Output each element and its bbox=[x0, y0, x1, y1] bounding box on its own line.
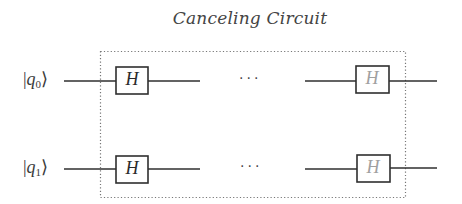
q0-ellipsis: ··· bbox=[239, 70, 261, 86]
q1-h-gate-first-label: H bbox=[116, 158, 148, 179]
ket-close: ⟩ bbox=[41, 157, 48, 177]
q0-h-gate-last-label: H bbox=[356, 68, 388, 89]
q1-h-gate-last-label: H bbox=[357, 157, 389, 178]
qubit-var: q bbox=[27, 157, 36, 177]
q0-h-gate-first-label: H bbox=[116, 69, 148, 90]
qubit-label-q1: |q1⟩ bbox=[23, 156, 48, 178]
qubit-var: q bbox=[27, 69, 36, 89]
qubit-label-q0: |q0⟩ bbox=[23, 68, 48, 90]
circuit-canvas bbox=[0, 0, 462, 204]
ket-close: ⟩ bbox=[41, 69, 48, 89]
q1-ellipsis: ··· bbox=[240, 158, 262, 174]
